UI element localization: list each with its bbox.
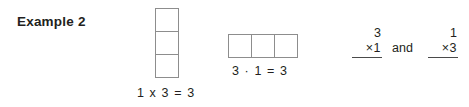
vertical-multiplication-left: 3 ×1 <box>352 26 382 58</box>
row-array-model <box>228 34 298 58</box>
worksheet-figure: Example 2 1 x 3 = 3 3 · 1 = 3 3 ×1 and 1… <box>0 0 469 107</box>
unit-square <box>155 8 179 32</box>
right-top-factor: 1 <box>428 26 458 41</box>
vertical-multiplication-right: 1 ×3 <box>428 26 458 58</box>
unit-square <box>155 54 179 78</box>
unit-square <box>155 31 179 55</box>
unit-square <box>251 34 275 58</box>
conjunction-text: and <box>392 41 413 55</box>
unit-square <box>274 34 298 58</box>
column-model-caption: 1 x 3 = 3 <box>137 86 195 100</box>
left-bottom-factor: ×1 <box>352 41 382 58</box>
row-model-caption: 3 · 1 = 3 <box>232 64 288 78</box>
right-bottom-factor: ×3 <box>428 41 458 58</box>
left-top-factor: 3 <box>352 26 382 41</box>
unit-square <box>228 34 252 58</box>
column-array-model <box>155 8 179 78</box>
example-label: Example 2 <box>17 14 86 29</box>
